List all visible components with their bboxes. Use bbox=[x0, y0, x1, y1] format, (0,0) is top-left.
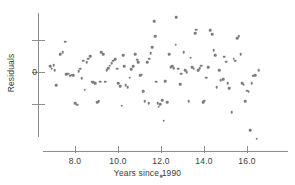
scatter-point bbox=[130, 68, 133, 71]
scatter-point bbox=[153, 20, 156, 23]
x-axis-tick-label: 8.0 bbox=[69, 156, 81, 166]
scatter-point bbox=[102, 53, 105, 56]
scatter-point bbox=[89, 55, 92, 58]
scatter-point bbox=[173, 67, 176, 70]
scatter-point bbox=[126, 86, 129, 89]
scatter-point bbox=[123, 65, 126, 68]
scatter-point bbox=[114, 58, 117, 61]
x-axis-title: Years since 1990 bbox=[0, 168, 295, 178]
scatter-point bbox=[64, 40, 67, 43]
scatter-point bbox=[109, 64, 112, 67]
scatter-point bbox=[222, 78, 225, 81]
scatter-point bbox=[147, 102, 150, 105]
scatter-point bbox=[226, 82, 229, 85]
scatter-point bbox=[99, 80, 102, 83]
scatter-point bbox=[94, 82, 97, 85]
scatter-point bbox=[149, 52, 152, 55]
y-axis-title: Residuals bbox=[6, 43, 16, 103]
scatter-point bbox=[168, 53, 171, 56]
scatter-point bbox=[186, 71, 189, 74]
scatter-point bbox=[254, 74, 257, 77]
scatter-point bbox=[74, 102, 77, 105]
scatter-point bbox=[97, 100, 100, 103]
scatter-point bbox=[86, 61, 89, 64]
scatter-point bbox=[228, 87, 231, 90]
scatter-point bbox=[189, 56, 192, 59]
scatter-point bbox=[132, 65, 135, 68]
scatter-point bbox=[154, 35, 157, 38]
scatter-point bbox=[212, 49, 215, 52]
scatter-point bbox=[50, 68, 53, 71]
scatter-point bbox=[121, 104, 124, 107]
scatter-point bbox=[192, 68, 195, 71]
scatter-point bbox=[255, 137, 258, 140]
scatter-point bbox=[69, 75, 72, 78]
scatter-point bbox=[241, 82, 244, 85]
scatter-point bbox=[116, 68, 119, 71]
scatter-point bbox=[104, 80, 107, 83]
scatter-point bbox=[187, 100, 190, 103]
scatter-point bbox=[87, 57, 90, 60]
scatter-point bbox=[162, 119, 165, 122]
scatter-point bbox=[242, 84, 245, 87]
scatter-point bbox=[182, 51, 185, 54]
scatter-point bbox=[59, 53, 62, 56]
scatter-point bbox=[216, 86, 219, 89]
x-axis-tick-label: 10.0 bbox=[109, 156, 126, 166]
scatter-point bbox=[155, 80, 158, 83]
scatter-point bbox=[239, 53, 242, 56]
scatter-point bbox=[169, 66, 172, 69]
scatter-point bbox=[180, 72, 183, 75]
scatter-point bbox=[211, 33, 214, 36]
scatter-point bbox=[129, 76, 132, 79]
scatter-point bbox=[100, 51, 103, 54]
scatter-point bbox=[92, 81, 95, 84]
scatter-point bbox=[67, 72, 70, 75]
scatter-plot-figure: 0 Residuals 8.010.012.014.016.0 Years si… bbox=[0, 0, 295, 185]
scatter-point bbox=[252, 75, 255, 78]
x-axis-tick-label: 14.0 bbox=[195, 156, 212, 166]
scatter-point bbox=[247, 91, 250, 94]
scatter-point bbox=[72, 74, 75, 77]
scatter-point bbox=[110, 62, 113, 65]
scatter-point bbox=[218, 69, 221, 72]
scatter-point bbox=[55, 84, 58, 87]
x-axis-tick bbox=[204, 146, 205, 153]
scatter-point bbox=[219, 79, 222, 82]
scatter-point bbox=[156, 102, 159, 105]
scatter-point bbox=[223, 55, 226, 58]
scatter-point bbox=[250, 82, 253, 85]
scatter-point bbox=[49, 65, 52, 68]
scatter-point bbox=[234, 60, 237, 63]
scatter-point bbox=[232, 57, 235, 60]
scatter-point bbox=[76, 103, 79, 106]
x-axis-tick bbox=[247, 146, 248, 153]
scatter-point bbox=[158, 105, 161, 108]
scatter-point bbox=[140, 73, 143, 76]
scatter-point bbox=[65, 73, 68, 76]
scatter-point bbox=[61, 51, 64, 54]
scatter-point bbox=[117, 82, 120, 85]
x-axis-tick bbox=[118, 146, 119, 153]
x-axis-tick-label: 16.0 bbox=[238, 156, 255, 166]
scatter-point bbox=[52, 64, 55, 67]
scatter-point bbox=[164, 80, 167, 83]
scatter-point bbox=[195, 28, 198, 31]
scatter-point bbox=[205, 76, 208, 79]
y-axis-tick-lower bbox=[32, 104, 45, 105]
scatter-point bbox=[230, 111, 233, 114]
scatter-point bbox=[70, 73, 73, 76]
scatter-point bbox=[177, 68, 180, 71]
scatter-point bbox=[202, 101, 205, 104]
y-axis-tick-label-zero: 0 bbox=[32, 67, 37, 77]
y-axis-line bbox=[38, 13, 39, 137]
scatter-point bbox=[96, 101, 99, 104]
x-axis-tick bbox=[161, 146, 162, 153]
scatter-point bbox=[179, 83, 182, 86]
scatter-point bbox=[194, 32, 197, 35]
scatter-point bbox=[134, 53, 137, 56]
scatter-point bbox=[146, 61, 149, 64]
scatter-point bbox=[78, 70, 81, 73]
scatter-point bbox=[122, 54, 125, 57]
x-axis-line bbox=[43, 151, 288, 152]
